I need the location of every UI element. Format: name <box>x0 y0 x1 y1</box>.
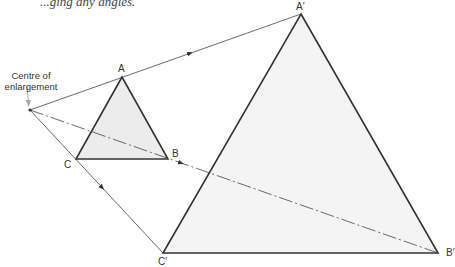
image-triangle <box>163 14 438 253</box>
vertex-label-a: A <box>118 63 125 74</box>
vertex-label-b: B <box>172 148 179 159</box>
enlargement-diagram: ...ging any angles. Centre of enlargemen… <box>0 0 455 267</box>
centre-label-line2: enlargement <box>3 81 59 92</box>
pointer-arrow-icon <box>26 100 32 107</box>
vertex-label-a-prime: A′ <box>296 1 305 12</box>
centre-label-line1: Centre of <box>3 70 59 81</box>
diagram-svg <box>0 0 455 267</box>
centre-point <box>28 108 31 111</box>
centre-of-enlargement-label: Centre of enlargement <box>3 70 59 92</box>
vertex-label-c: C <box>64 159 71 170</box>
object-triangle <box>76 77 168 159</box>
vertex-label-c-prime: C′ <box>158 256 167 267</box>
vertex-label-b-prime: B′ <box>446 247 455 258</box>
